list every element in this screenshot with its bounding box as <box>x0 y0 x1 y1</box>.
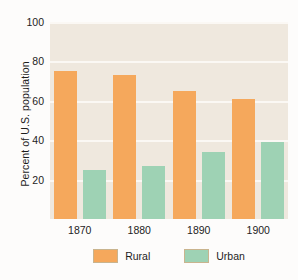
x-tick-label: 1870 <box>50 224 110 236</box>
legend-swatch-rural-icon <box>93 249 118 263</box>
y-tick-label: 60 <box>2 95 44 107</box>
bar-urban-1890[interactable] <box>202 152 225 219</box>
legend-item-rural[interactable]: Rural <box>93 249 150 263</box>
bar-rural-1900[interactable] <box>232 99 255 219</box>
chart-legend: RuralUrban <box>50 249 288 263</box>
bar-urban-1880[interactable] <box>142 166 165 219</box>
x-tick-label: 1890 <box>169 224 229 236</box>
x-tick-label: 1880 <box>110 224 170 236</box>
bar-group-1880 <box>110 22 170 219</box>
bar-rural-1870[interactable] <box>54 71 77 219</box>
legend-label: Urban <box>216 250 245 262</box>
bar-group-1870 <box>50 22 110 219</box>
y-tick-label: 80 <box>2 55 44 67</box>
bar-urban-1900[interactable] <box>261 142 284 219</box>
legend-swatch-urban-icon <box>184 249 209 263</box>
legend-label: Rural <box>125 250 150 262</box>
bar-rural-1890[interactable] <box>173 91 196 219</box>
y-tick-label: 100 <box>2 16 44 28</box>
bar-chart-figure: Percent of U.S. population 10080604020 1… <box>0 0 298 280</box>
bar-groups <box>50 22 288 219</box>
bar-group-1890 <box>169 22 229 219</box>
plot-area <box>50 22 288 219</box>
legend-item-urban[interactable]: Urban <box>184 249 245 263</box>
bar-rural-1880[interactable] <box>113 75 136 219</box>
bar-group-1900 <box>229 22 289 219</box>
y-tick-label: 40 <box>2 134 44 146</box>
x-tick-label: 1900 <box>229 224 289 236</box>
x-axis-tick-labels: 1870188018901900 <box>50 224 288 236</box>
bar-urban-1870[interactable] <box>83 170 106 219</box>
y-tick-label: 20 <box>2 174 44 186</box>
